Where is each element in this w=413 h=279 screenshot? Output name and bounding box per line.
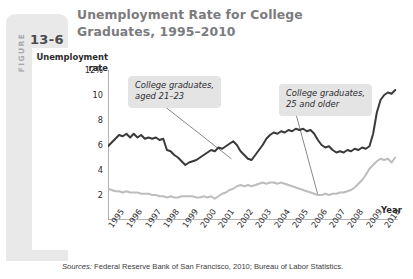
source-text: Federal Reserve Bank of San Francisco, 2… xyxy=(92,262,343,271)
source-label: Sources: xyxy=(62,262,92,271)
annotation-college-graduates-21-23: College graduates, aged 21–23 xyxy=(128,76,221,108)
source-note: Sources: Federal Reserve Bank of San Fra… xyxy=(62,262,343,271)
y-tick-label: 6 xyxy=(73,140,103,150)
figure-word-label: FIGURE xyxy=(17,25,26,81)
chart-title: Unemployment Rate for College Graduates,… xyxy=(77,7,337,40)
annotation-college-graduates-25-older: College graduates, 25 and older xyxy=(279,84,372,116)
y-tick-label: 8 xyxy=(73,115,103,125)
y-axis-tick-labels: 12%108642 xyxy=(70,70,103,220)
y-tick-label: 10 xyxy=(73,90,103,100)
y-tick-label: 2 xyxy=(73,190,103,200)
y-tick-label: 4 xyxy=(73,165,103,175)
y-tick-label: 12% xyxy=(73,65,103,75)
x-axis-tick-labels: 1995199619971998199920002001200220032004… xyxy=(108,222,408,262)
figure-number-label: 13-6 xyxy=(30,32,64,47)
